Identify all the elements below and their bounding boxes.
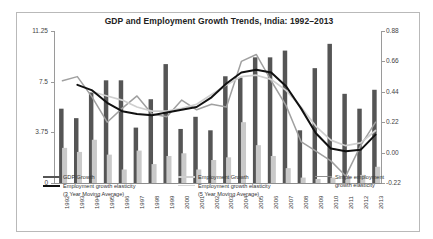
y-tick-label-left: 3.75 bbox=[17, 128, 48, 135]
chart-title: GDP and Employment Growth Trends, India:… bbox=[17, 16, 421, 26]
legend-swatch-simple-elasticity bbox=[315, 176, 332, 177]
legend-swatch-gdp-growth bbox=[43, 176, 60, 178]
y-tick-label-right: 0.44 bbox=[386, 88, 399, 95]
legend-column-2: Employment Growth Employment growth elas… bbox=[178, 173, 308, 199]
legend-sublabel: (5 Year Moving Average) bbox=[198, 191, 259, 197]
legend-item-gdp-growth: GDP Growth bbox=[43, 173, 173, 181]
y-tick-label-right: 0.88 bbox=[386, 27, 399, 34]
legend-item-simple-elasticity: Simple employment growth elasticity bbox=[315, 173, 415, 189]
legend-sublabel: growth elasticity bbox=[335, 182, 375, 188]
legend-item-employment-growth: Employment Growth bbox=[178, 173, 308, 181]
y-tick-left bbox=[51, 31, 54, 32]
legend-label: Simple employment bbox=[335, 174, 384, 180]
legend-column-1: GDP Growth Employment growth elasticity … bbox=[43, 173, 173, 199]
legend-swatch-elasticity-5yr bbox=[178, 185, 195, 186]
y-tick-left bbox=[51, 132, 54, 133]
y-tick-label-right: 0.66 bbox=[386, 57, 399, 64]
legend-swatch-elasticity-3yr bbox=[43, 185, 60, 187]
y-tick-label-right: 0.22 bbox=[386, 118, 399, 125]
legend-swatch-employment-growth bbox=[178, 176, 195, 178]
legend-label: Employment growth elasticity bbox=[198, 183, 270, 189]
y-tick-right bbox=[382, 31, 385, 32]
x-tick-label: 2009 bbox=[318, 196, 324, 209]
legend-item-elasticity-3yr: Employment growth elasticity (3 Year Mov… bbox=[43, 182, 173, 198]
chart-canvas bbox=[55, 31, 383, 183]
x-tick-label: 2011 bbox=[348, 196, 354, 209]
legend-label: Employment Growth bbox=[198, 174, 249, 180]
y-tick-right bbox=[382, 61, 385, 62]
plot-area bbox=[54, 31, 382, 183]
legend-label: Employment growth elasticity bbox=[63, 183, 135, 189]
bar-gdp-growth bbox=[119, 80, 123, 183]
legend-label: GDP Growth bbox=[63, 174, 95, 180]
x-tick-label: 2012 bbox=[363, 196, 369, 209]
legend-column-3: Simple employment growth elasticity bbox=[315, 173, 415, 190]
bar-gdp-growth bbox=[342, 94, 346, 183]
y-tick-right bbox=[382, 153, 385, 154]
y-tick-label-right: 0.00 bbox=[386, 149, 399, 156]
y-tick-label-left: 7.5 bbox=[17, 78, 48, 85]
x-tick-label: 2013 bbox=[378, 196, 384, 209]
y-tick-label-left: 11.25 bbox=[17, 27, 48, 34]
chart-frame: GDP and Employment Growth Trends, India:… bbox=[16, 12, 420, 232]
bar-gdp-growth bbox=[283, 51, 287, 183]
legend-item-elasticity-5yr: Employment growth elasticity (5 Year Mov… bbox=[178, 182, 308, 198]
y-tick-right bbox=[382, 122, 385, 123]
legend-sublabel: (3 Year Moving Average) bbox=[63, 191, 124, 197]
y-tick-left bbox=[51, 82, 54, 83]
x-tick-label: 2010 bbox=[333, 196, 339, 209]
y-tick-right bbox=[382, 92, 385, 93]
